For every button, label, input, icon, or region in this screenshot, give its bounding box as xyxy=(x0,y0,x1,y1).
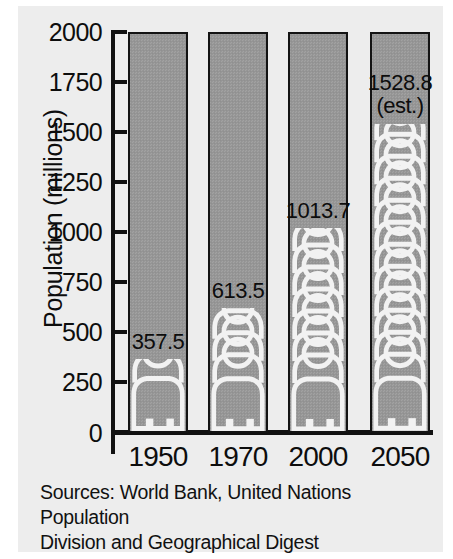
y-tick-mark xyxy=(111,30,127,34)
y-tick-label: 500 xyxy=(24,318,102,347)
bar-frame xyxy=(288,32,348,433)
y-tick-label: 1500 xyxy=(24,118,102,147)
y-tick-label: 1000 xyxy=(24,218,102,247)
source-note-line-2: Division and Geographical Digest xyxy=(40,530,432,555)
y-tick-mark xyxy=(111,130,127,134)
bar-value-label: 357.5 xyxy=(103,331,213,353)
y-tick-mark xyxy=(111,230,127,234)
person-pictogram-stack xyxy=(372,124,428,430)
y-tick-mark xyxy=(111,80,127,84)
source-note-line-1: Sources: World Bank, United Nations Popu… xyxy=(40,480,432,530)
bar-value-number: 613.5 xyxy=(212,278,265,303)
chart-figure: Population (millions) 025050075010001250… xyxy=(18,6,443,552)
bar-value-label: 1528.8(est.) xyxy=(345,72,453,117)
y-tick-label: 1250 xyxy=(24,168,102,197)
y-tick-mark xyxy=(111,380,127,384)
bar-value-number: 1013.7 xyxy=(286,198,350,223)
y-tick-label: 750 xyxy=(24,268,102,297)
bar-frame xyxy=(208,32,268,433)
bar-value-label: 613.5 xyxy=(183,280,293,302)
bar-value-number: 357.5 xyxy=(132,329,185,354)
y-axis-line xyxy=(111,30,115,454)
y-axis-tick-labels: 025050075010001250150017502000 xyxy=(24,6,102,552)
person-pictogram-stack xyxy=(290,228,346,431)
source-note: Sources: World Bank, United Nations Popu… xyxy=(40,480,432,555)
y-tick-label: 1750 xyxy=(24,68,102,97)
y-tick-label: 2000 xyxy=(24,18,102,47)
bar-value-number: 1528.8 xyxy=(368,70,432,95)
y-tick-label: 250 xyxy=(24,368,102,397)
y-tick-mark xyxy=(111,180,127,184)
y-tick-label: 0 xyxy=(24,418,102,447)
person-pictogram-stack xyxy=(210,308,266,431)
bar-frame xyxy=(128,32,188,433)
x-tick-label: 2050 xyxy=(350,441,450,473)
bar-value-label: 1013.7 xyxy=(263,200,373,222)
person-pictogram-stack xyxy=(130,359,186,431)
bar-value-estimate-note: (est.) xyxy=(345,95,453,117)
plot-area: Population (millions) 025050075010001250… xyxy=(18,6,443,552)
y-tick-mark xyxy=(111,280,127,284)
